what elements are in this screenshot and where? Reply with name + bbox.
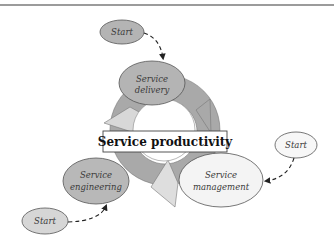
edge-start-right-to-management <box>266 158 294 181</box>
service-engineering-line2: engineering <box>70 182 122 192</box>
service-productivity-box: Service productivity <box>98 131 234 152</box>
start-top-label: Start <box>111 27 133 37</box>
edge-start-top-to-delivery <box>144 33 163 58</box>
service-delivery-line2: delivery <box>135 85 170 95</box>
node-service-delivery: Service delivery <box>119 61 185 105</box>
service-productivity-diagram: Service delivery Service engineering Ser… <box>0 0 334 252</box>
service-delivery-line1: Service <box>136 74 168 84</box>
node-service-engineering: Service engineering <box>63 158 129 204</box>
start-bottom-label: Start <box>34 216 56 226</box>
service-engineering-line1: Service <box>80 170 112 180</box>
service-management-line2: management <box>193 182 250 192</box>
service-management-line1: Service <box>205 170 237 180</box>
node-service-management: Service management <box>179 153 263 207</box>
service-productivity-title: Service productivity <box>98 135 234 149</box>
node-start-bottom: Start <box>22 208 68 234</box>
edge-start-bottom-to-engineering <box>68 206 106 222</box>
node-start-right: Start <box>275 132 317 158</box>
start-right-label: Start <box>285 140 307 150</box>
node-start-top: Start <box>100 20 144 44</box>
